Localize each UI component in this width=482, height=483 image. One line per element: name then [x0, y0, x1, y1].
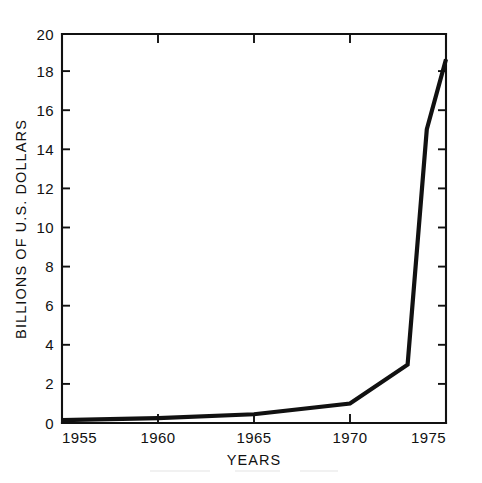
x-tick-label: 1970 — [333, 429, 368, 446]
x-tick-label: 1965 — [237, 429, 272, 446]
y-axis-title: BILLIONS OF U.S. DOLLARS — [13, 119, 29, 339]
x-tick-label: 1955 — [62, 429, 97, 446]
x-tick-label: 1975 — [411, 429, 446, 446]
y-tick-label: 18 — [37, 63, 55, 80]
y-tick-label: 16 — [37, 102, 55, 119]
scan-artifacts — [150, 470, 338, 472]
y-tick-label: 6 — [45, 297, 54, 314]
chart-figure: 0 2 4 6 8 10 12 14 16 18 20 1955 1960 19… — [0, 0, 482, 483]
y-tick-label: 14 — [37, 141, 55, 158]
y-tick-label: 4 — [45, 336, 54, 353]
y-tick-label: 8 — [45, 258, 54, 275]
y-tick-label: 10 — [37, 219, 55, 236]
y-tick-label: 2 — [45, 375, 54, 392]
x-axis-title: YEARS — [227, 452, 282, 468]
line-chart: 0 2 4 6 8 10 12 14 16 18 20 1955 1960 19… — [0, 0, 482, 483]
y-tick-label: 12 — [37, 180, 55, 197]
y-tick-label: 0 — [45, 415, 54, 432]
y-tick-label: 20 — [37, 26, 55, 43]
chart-background — [0, 0, 482, 483]
x-tick-label: 1960 — [141, 429, 176, 446]
